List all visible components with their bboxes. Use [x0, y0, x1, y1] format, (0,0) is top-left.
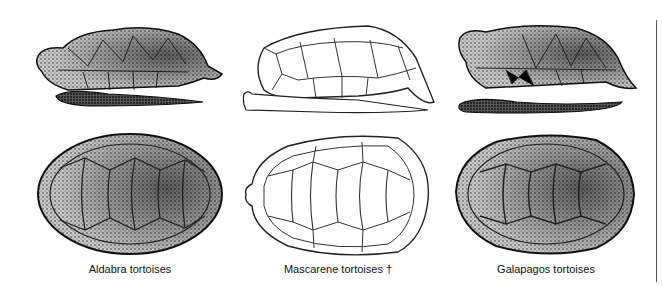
aldabra-dorsal-view: [30, 128, 230, 260]
mascarene-lateral-view: [238, 18, 438, 118]
divider-line: [656, 20, 657, 282]
galapagos-dorsal-view: [446, 128, 646, 260]
label-galapagos: Galapagos tortoises: [446, 263, 646, 275]
aldabra-lateral-view: [28, 18, 228, 118]
label-mascarene: Mascarene tortoises †: [238, 263, 438, 275]
galapagos-lateral-view: [446, 18, 646, 118]
label-aldabra: Aldabra tortoises: [30, 263, 230, 275]
mascarene-dorsal-view: [238, 130, 438, 260]
